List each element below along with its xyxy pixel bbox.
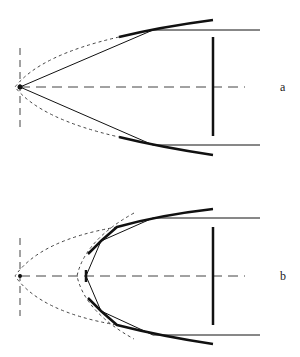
panel-label-b: b bbox=[280, 269, 286, 283]
mirror-upper bbox=[119, 20, 213, 37]
ray-lower bbox=[20, 87, 153, 145]
source-point bbox=[18, 85, 23, 90]
source-point bbox=[18, 274, 22, 278]
ray-upper bbox=[20, 30, 153, 87]
optics-diagram: a b bbox=[0, 0, 300, 357]
panel-a: a bbox=[15, 20, 286, 155]
mirror-lower bbox=[119, 137, 213, 155]
panel-label-a: a bbox=[280, 80, 286, 94]
panel-b: b bbox=[15, 209, 286, 344]
mirror-lower bbox=[88, 298, 213, 344]
